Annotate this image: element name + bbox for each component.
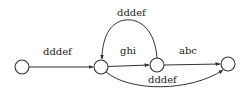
state-node-1 [15,60,29,74]
edge-label-n2-n3: ghi [120,45,136,56]
state-node-2 [94,60,108,74]
edge-label-n3-n2: dddef [117,7,147,18]
edge-n2-n3 [108,65,149,67]
edge-label-n2-n4: dddef [148,74,178,85]
edge-label-n1-n2: dddef [43,46,73,57]
state-node-3 [150,58,164,72]
state-diagram: dddef dddef ghi abc dddef [0,0,249,94]
state-node-4 [221,57,235,71]
edge-label-n3-n4: abc [179,45,197,56]
edge-n3-n4 [164,64,220,65]
